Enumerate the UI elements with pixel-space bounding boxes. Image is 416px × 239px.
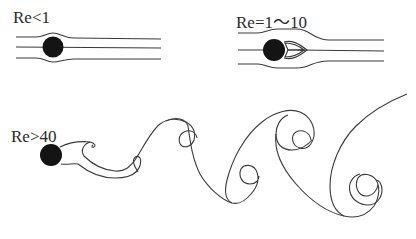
cylinder <box>43 37 64 58</box>
cylinder <box>40 144 62 166</box>
streamline-bottom <box>16 58 161 62</box>
streamline-middle <box>16 47 161 48</box>
cylinder <box>263 39 285 61</box>
flow-diagram <box>0 0 416 239</box>
streamline-middle <box>238 50 384 51</box>
streamline-top <box>16 33 161 39</box>
streamline-top <box>238 29 384 40</box>
vortex-filament-5 <box>330 94 407 216</box>
panel-recirculation <box>238 29 384 68</box>
recirculation-bubble-upper <box>285 43 304 50</box>
panel-creeping-flow <box>16 33 161 62</box>
panel-vortex-street <box>40 94 407 217</box>
shear-layer-bottom <box>61 164 78 165</box>
streamline-bottom <box>238 61 384 68</box>
vortex-filament-1 <box>82 119 197 171</box>
vortex-filament-2 <box>166 119 259 204</box>
recirculation-bubble-lower <box>285 50 304 57</box>
